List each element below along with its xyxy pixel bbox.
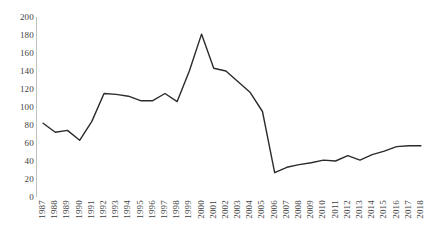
x-tick-label: 1998	[172, 200, 181, 219]
x-tick-label: 2012	[343, 200, 352, 219]
x-tick-label: 1989	[62, 200, 71, 219]
x-tick-label: 1997	[160, 200, 169, 219]
x-tick-label: 2001	[209, 200, 218, 219]
x-tick-label: 1990	[75, 200, 84, 219]
x-tick-label: 2008	[294, 200, 303, 219]
x-tick-label: 2015	[379, 200, 388, 219]
line-chart: 020406080100120140160180200 198719881989…	[0, 0, 431, 249]
x-tick-label: 2005	[257, 200, 266, 219]
x-tick-label: 2004	[245, 200, 254, 219]
x-tick-label: 2000	[197, 200, 206, 219]
x-tick-label: 1992	[99, 200, 108, 219]
x-tick-label: 1987	[38, 200, 47, 219]
x-tick-label: 2017	[404, 200, 413, 219]
x-tick-label: 2016	[392, 200, 401, 219]
x-tick-label: 1991	[87, 200, 96, 219]
x-axis: 1987198819891990199119921993199419951996…	[0, 0, 431, 249]
x-tick-label: 1988	[50, 200, 59, 219]
x-tick-label: 2011	[331, 200, 340, 218]
x-tick-label: 2013	[355, 200, 364, 219]
x-tick-label: 2003	[233, 200, 242, 219]
x-tick-label: 2018	[416, 200, 425, 219]
x-tick-label: 2007	[282, 200, 291, 219]
x-tick-label: 1995	[136, 200, 145, 219]
x-tick-label: 2010	[318, 200, 327, 219]
x-tick-label: 2006	[270, 200, 279, 219]
x-tick-label: 1996	[148, 200, 157, 219]
x-tick-label: 1999	[184, 200, 193, 219]
x-tick-label: 2002	[221, 200, 230, 219]
x-tick-label: 1993	[111, 200, 120, 219]
x-tick-label: 1994	[123, 200, 132, 219]
x-tick-label: 2009	[306, 200, 315, 219]
x-tick-label: 2014	[367, 200, 376, 219]
